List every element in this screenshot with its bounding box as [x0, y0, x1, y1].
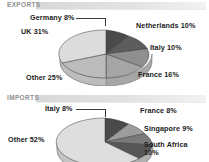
imports-header-rule: [36, 95, 206, 102]
imports-label-other: Other 52%: [8, 136, 44, 144]
exports-label-france: France 16%: [138, 71, 179, 79]
exports-label-italy: Italy 10%: [150, 44, 182, 52]
italy-leader-line-horizontal: [76, 109, 105, 110]
imports-chart-panel: IMPORTS: [0, 93, 209, 162]
exports-label-uk: UK 31%: [21, 28, 48, 36]
exports-section-header: EXPORTS: [0, 0, 209, 11]
imports-pie-svg: [55, 114, 155, 162]
exports-chart-panel: EXPORTS: [0, 0, 209, 93]
exports-label-other: Other 25%: [26, 74, 62, 82]
imports-label-south-africa: South Africa 10%: [144, 141, 188, 158]
imports-pie-chart: [55, 114, 155, 162]
imports-label-italy: Italy 8%: [45, 105, 73, 113]
exports-header-rule: [36, 2, 206, 9]
exports-label-germany: Germany 8%: [30, 14, 75, 22]
imports-label-france: France 8%: [140, 107, 177, 115]
italy-leader-line-vertical: [105, 109, 106, 117]
imports-label-singapore: Singapore 9%: [144, 125, 193, 133]
germany-leader-line-horizontal: [76, 18, 105, 19]
imports-section-title: IMPORTS: [7, 94, 39, 101]
exports-label-netherlands: Netherlands 10%: [136, 22, 195, 30]
exports-section-title: EXPORTS: [7, 1, 41, 8]
germany-leader-line-vertical: [105, 18, 106, 26]
imports-section-header: IMPORTS: [0, 93, 209, 104]
